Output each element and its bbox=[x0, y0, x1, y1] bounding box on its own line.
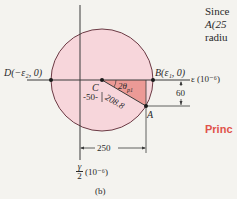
gamma-axis-label: γ 2 (10⁻⁶) bbox=[76, 162, 108, 181]
section-heading: Princ bbox=[205, 123, 233, 135]
dim-50-value: 50 bbox=[86, 92, 95, 102]
point-a-label: A bbox=[147, 110, 153, 120]
angle-label: 2θp1 bbox=[118, 82, 133, 93]
point-d bbox=[49, 78, 53, 82]
angle-symbol: 2θ bbox=[118, 81, 127, 91]
point-b bbox=[151, 78, 155, 82]
dim-60-arrow-bottom bbox=[180, 101, 183, 105]
dim-60-label: 60 bbox=[176, 89, 185, 98]
dim-60-arrow-top bbox=[180, 81, 183, 85]
gamma-fraction: γ 2 bbox=[76, 162, 83, 181]
dim-250-arrow-left bbox=[80, 147, 84, 150]
gamma-numerator: γ bbox=[78, 162, 82, 171]
point-c bbox=[100, 78, 104, 82]
side-text-line-3: radiu bbox=[205, 31, 228, 44]
gamma-unit: (10⁻⁶) bbox=[85, 167, 108, 177]
dim-250-arrow-right bbox=[142, 147, 146, 150]
dim-50-label: -50- bbox=[83, 93, 98, 102]
epsilon-axis-label: ε (10⁻⁶) bbox=[191, 75, 220, 84]
side-text-line-1: Since bbox=[205, 5, 229, 18]
side-text-line-2: A(25 bbox=[205, 18, 226, 31]
point-a bbox=[144, 104, 148, 108]
point-b-label: B(ε₁, 0) bbox=[155, 68, 185, 78]
figure-caption: (b) bbox=[95, 187, 106, 196]
gamma-denominator: 2 bbox=[77, 172, 82, 181]
dim-250-label: 250 bbox=[97, 144, 111, 153]
angle-subscript: p1 bbox=[127, 87, 133, 93]
point-d-label: D(−ε₂, 0) bbox=[4, 68, 42, 78]
